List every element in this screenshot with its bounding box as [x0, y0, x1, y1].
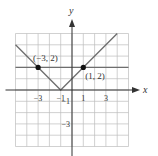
- intersection-point: [36, 65, 41, 70]
- graph: x y −3−113−1−3 (−3, 2)(1, 2): [0, 0, 158, 156]
- x-axis-arrow-icon: [132, 87, 140, 93]
- x-tick-label: −3: [34, 94, 43, 103]
- point-label: (1, 2): [85, 71, 105, 81]
- y-axis-arrow-icon: [69, 19, 75, 27]
- abs-value-curve: [16, 34, 118, 91]
- x-tick-label: 3: [104, 94, 108, 103]
- point-label: (−3, 2): [33, 53, 58, 63]
- y-tick-label: −1: [61, 97, 70, 106]
- x-tick-label: 1: [81, 94, 85, 103]
- y-axis-label: y: [68, 5, 74, 16]
- intersection-point: [81, 65, 86, 70]
- y-tick-label: −3: [61, 120, 70, 129]
- x-axis-label: x: [142, 84, 148, 95]
